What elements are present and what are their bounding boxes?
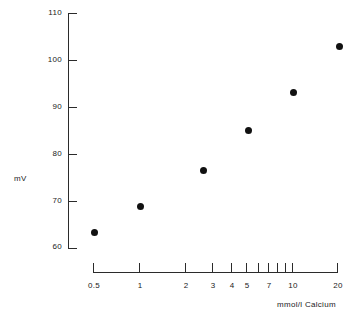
y-tick-label-90: 90 bbox=[28, 102, 62, 111]
data-point bbox=[290, 89, 297, 96]
x-tick-7 bbox=[268, 263, 269, 273]
x-tick-label-10: 10 bbox=[278, 281, 308, 290]
y-tick-label-110: 110 bbox=[28, 8, 62, 17]
x-tick-6 bbox=[258, 263, 259, 273]
y-tick-label-80: 80 bbox=[28, 149, 62, 158]
x-tick-9 bbox=[285, 263, 286, 273]
y-axis-title: mV bbox=[14, 174, 27, 183]
x-tick-5 bbox=[246, 263, 247, 273]
data-point bbox=[137, 203, 144, 210]
y-axis-line bbox=[68, 13, 69, 249]
y-tick-label-100: 100 bbox=[28, 55, 62, 64]
data-point bbox=[91, 229, 98, 236]
x-tick-2 bbox=[185, 263, 186, 273]
x-tick-3 bbox=[212, 263, 213, 273]
x-tick-label-1: 1 bbox=[125, 281, 155, 290]
x-tick-8 bbox=[277, 263, 278, 273]
data-point bbox=[200, 167, 207, 174]
y-tick-60 bbox=[68, 248, 77, 249]
x-tick-1 bbox=[139, 263, 140, 273]
y-tick-110 bbox=[68, 13, 77, 14]
x-axis-title: mmol/l Calcium bbox=[277, 300, 336, 309]
y-tick-80 bbox=[68, 154, 77, 155]
x-tick-4 bbox=[231, 263, 232, 273]
y-tick-100 bbox=[68, 60, 77, 61]
x-tick-10 bbox=[292, 263, 293, 273]
x-tick-label-20: 20 bbox=[323, 281, 353, 290]
x-tick-label-2: 2 bbox=[171, 281, 201, 290]
y-tick-70 bbox=[68, 201, 77, 202]
y-tick-label-70: 70 bbox=[28, 196, 62, 205]
data-point bbox=[245, 127, 252, 134]
x-tick-20 bbox=[337, 263, 338, 273]
data-point bbox=[336, 43, 343, 50]
x-tick-label-0.5: 0.5 bbox=[79, 281, 109, 290]
scatter-plot: 110 100 90 80 70 60 mV 0.5 1 2 3 4 5 7 1… bbox=[0, 0, 358, 321]
y-tick-90 bbox=[68, 107, 77, 108]
y-tick-label-60: 60 bbox=[28, 242, 62, 251]
x-tick-0.5 bbox=[93, 263, 94, 273]
x-axis-line bbox=[93, 272, 338, 273]
